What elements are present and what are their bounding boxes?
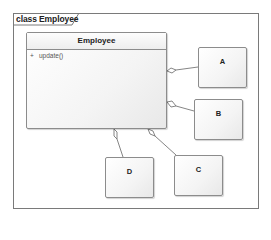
class-b-name: B — [195, 109, 242, 118]
connector-employee-c — [155, 136, 176, 155]
class-b[interactable]: B — [194, 99, 243, 140]
class-d-name: D — [106, 167, 153, 176]
connector-employee-b — [176, 106, 194, 111]
class-employee-name: Employee — [27, 33, 166, 50]
connector-employee-a — [176, 67, 198, 70]
class-c[interactable]: C — [174, 155, 223, 196]
aggregation-diamond-b — [167, 101, 176, 107]
class-a[interactable]: A — [198, 47, 247, 88]
connector-employee-d — [117, 139, 123, 157]
operation-update[interactable]: +update() — [30, 52, 63, 59]
class-employee[interactable]: Employee +update() — [26, 32, 167, 129]
visibility-public: + — [30, 52, 39, 59]
aggregation-diamond-d — [114, 129, 117, 139]
class-c-name: C — [175, 165, 222, 174]
class-d[interactable]: D — [105, 157, 154, 198]
aggregation-diamond-a — [167, 68, 176, 73]
operation-signature: update() — [39, 52, 63, 59]
aggregation-diamond-c — [148, 129, 155, 136]
class-a-name: A — [199, 57, 246, 66]
